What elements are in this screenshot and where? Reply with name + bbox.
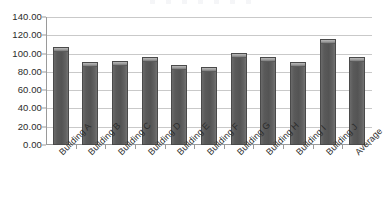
y-tick-label: 60.00 (18, 85, 42, 95)
bar-cap (143, 58, 157, 62)
x-tick-mark (105, 145, 106, 149)
y-tick-label: 40.00 (18, 103, 42, 113)
x-tick-mark (224, 145, 225, 149)
y-tick-label: 20.00 (18, 122, 42, 132)
x-tick-mark (313, 145, 314, 149)
x-tick-mark (253, 145, 254, 149)
bar-cap (261, 58, 275, 62)
bar (53, 47, 69, 145)
bar-cap (113, 62, 127, 66)
y-tick-label: 140.00 (12, 12, 42, 22)
y-tick-label: 0.00 (23, 140, 42, 150)
x-tick-mark (76, 145, 77, 149)
x-tick-mark (283, 145, 284, 149)
y-tick-label: 80.00 (18, 67, 42, 77)
bar-cap (291, 63, 305, 67)
bar-cap (172, 66, 186, 70)
clipped-title-remnant (150, 0, 260, 4)
bar-cap (321, 40, 335, 44)
bar-cap (202, 68, 216, 72)
x-tick-mark (135, 145, 136, 149)
bar-slot (46, 17, 76, 145)
bar-cap (232, 54, 246, 58)
bar-cap (83, 63, 97, 67)
x-tick-mark (165, 145, 166, 149)
y-tick-label: 120.00 (12, 30, 42, 40)
x-axis-labels: Building ABuilding BBuilding CBuilding D… (46, 150, 372, 204)
bar-cap (54, 48, 68, 52)
x-tick-mark (194, 145, 195, 149)
bar-cap (350, 58, 364, 62)
y-axis: 140.00120.00100.0080.0060.0040.0020.000.… (0, 17, 42, 145)
y-tick-label: 100.00 (12, 49, 42, 59)
